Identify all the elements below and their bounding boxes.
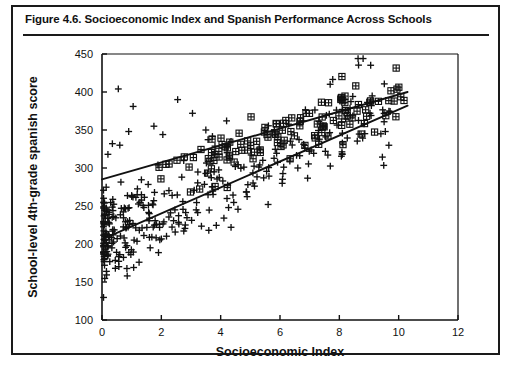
data-point-public-schools: [305, 161, 312, 168]
data-point-private-schools: [388, 88, 394, 94]
data-point-outlier-high: [109, 140, 116, 147]
y-tick-label: 350: [75, 124, 93, 136]
data-point-public-schools: [147, 244, 154, 251]
x-tick-label: 4: [218, 326, 224, 338]
lower-trend-line: [102, 106, 408, 240]
data-point-private-schools: [236, 130, 242, 136]
y-tick-label: 150: [75, 276, 93, 288]
x-tick-label: 12: [452, 326, 464, 338]
data-point-outlier-low: [265, 201, 272, 208]
data-point-private-schools: [248, 114, 254, 120]
data-point-outlier-high: [151, 123, 158, 130]
data-point-public-schools: [201, 181, 208, 188]
data-point-public-schools: [230, 199, 237, 206]
data-point-private-schools: [318, 99, 324, 105]
data-point-outlier-high: [223, 117, 230, 124]
data-point-public-schools: [225, 204, 232, 211]
data-point-private-schools: [197, 186, 203, 192]
data-point-private-schools: [190, 154, 196, 160]
data-point-public-schools: [166, 214, 173, 221]
data-point-public-schools: [251, 183, 258, 190]
data-point-public-schools: [175, 212, 182, 219]
data-point-private-schools: [354, 108, 360, 114]
data-point-outlier-high: [125, 128, 132, 135]
data-point-public-schools: [130, 264, 137, 271]
data-point-outlier-high: [105, 151, 112, 158]
x-tick-label: 6: [277, 326, 283, 338]
data-point-private-schools: [288, 128, 294, 134]
data-point-public-schools: [109, 226, 116, 233]
data-point-private-schools: [218, 135, 224, 141]
data-point-private-schools: [325, 100, 331, 106]
data-point-public-schools: [112, 257, 119, 264]
data-point-public-schools: [235, 206, 242, 213]
x-axis-title: Socioeconomic Index: [216, 345, 345, 357]
data-point-public-schools: [304, 175, 311, 182]
data-point-public-schools: [221, 215, 228, 222]
data-point-public-schools: [155, 249, 162, 256]
data-point-private-schools: [353, 83, 359, 89]
data-point-public-schools: [169, 224, 176, 231]
x-tick-label: 10: [393, 326, 405, 338]
data-point-outlier-high: [202, 127, 209, 134]
data-point-public-schools: [182, 222, 189, 229]
y-tick-label: 450: [75, 48, 93, 60]
y-tick-label: 250: [75, 200, 93, 212]
data-point-private-schools: [393, 65, 399, 71]
data-point-public-schools: [208, 174, 215, 181]
data-point-private-schools: [363, 107, 369, 113]
x-tick-label: 2: [158, 326, 164, 338]
data-point-private-schools: [339, 122, 345, 128]
data-point-private-schools: [158, 176, 164, 182]
data-point-private-schools: [401, 97, 407, 103]
data-point-public-schools: [150, 197, 157, 204]
data-point-public-schools: [145, 181, 152, 188]
data-point-public-schools: [280, 164, 287, 171]
data-point-public-schools: [251, 163, 258, 170]
x-tick-label: 0: [99, 326, 105, 338]
data-point-public-schools: [279, 180, 286, 187]
data-point-public-schools: [327, 163, 334, 170]
y-tick-label: 100: [75, 314, 93, 326]
data-point-public-schools: [151, 189, 158, 196]
data-point-public-schools: [355, 55, 362, 62]
data-point-outlier-low: [205, 227, 212, 234]
data-point-outlier-high: [159, 131, 166, 138]
data-point-public-schools: [145, 209, 152, 216]
data-point-public-schools: [279, 170, 286, 177]
chart-plot-area: 100150200250300350400450024681012Socioec…: [13, 7, 502, 357]
data-point-public-schools: [213, 222, 220, 229]
data-point-private-schools: [254, 138, 260, 144]
figure-container: Figure 4.6. Socioeconomic Index and Span…: [11, 5, 500, 355]
data-point-public-schools: [135, 201, 142, 208]
data-point-public-schools: [178, 174, 185, 181]
y-tick-label: 300: [75, 162, 93, 174]
data-point-outlier-high: [115, 86, 122, 93]
data-point-public-schools: [206, 207, 213, 214]
data-point-private-schools: [233, 148, 239, 154]
data-point-public-schools: [194, 169, 201, 176]
data-point-public-schools: [367, 62, 374, 69]
data-point-public-schools: [124, 265, 131, 272]
data-point-outlier-high: [116, 142, 123, 149]
data-point-private-schools: [339, 73, 345, 79]
y-tick-label: 400: [75, 86, 93, 98]
data-point-public-schools: [124, 192, 131, 199]
data-point-public-schools: [254, 173, 261, 180]
data-point-private-schools: [289, 115, 295, 121]
data-point-public-schools: [194, 179, 201, 186]
data-point-outlier-high: [174, 96, 181, 103]
data-point-outlier-high: [189, 110, 196, 117]
data-point-public-schools: [380, 162, 387, 169]
scatter-chart: 100150200250300350400450024681012Socioec…: [13, 7, 502, 357]
data-point-public-schools: [161, 190, 168, 197]
data-point-public-schools: [230, 192, 237, 199]
data-point-public-schools: [224, 195, 231, 202]
data-point-public-schools: [379, 154, 386, 161]
data-point-public-schools: [355, 62, 362, 69]
data-point-outlier-low: [103, 268, 110, 275]
data-point-public-schools: [243, 189, 250, 196]
data-point-outlier-low: [136, 259, 143, 266]
data-point-outlier-low: [124, 273, 131, 280]
data-point-private-schools: [347, 121, 353, 127]
